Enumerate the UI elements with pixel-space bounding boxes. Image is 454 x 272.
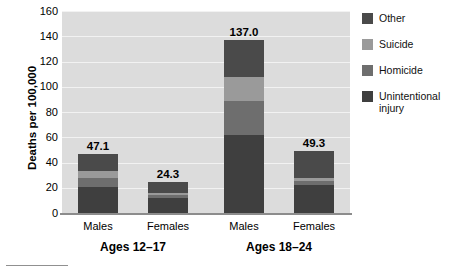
- legend-swatch-icon: [362, 13, 373, 24]
- legend-swatch-icon: [362, 39, 373, 50]
- bar: [224, 11, 264, 213]
- plot-area: [62, 11, 350, 213]
- stacked-bar-chart: Deaths per 100,000 160140120100806040200…: [0, 0, 454, 272]
- legend-item-label: Homicide: [379, 64, 423, 76]
- y-axis-tick-label: 80: [24, 107, 58, 118]
- x-axis-tick-label: Females: [272, 220, 356, 232]
- y-axis-tick-label: 100: [24, 81, 58, 92]
- legend-item: Unintentional injury: [362, 90, 454, 114]
- bar-segment: [78, 178, 118, 187]
- x-axis-group-label: Ages 18–24: [199, 240, 359, 254]
- bar-value-label: 49.3: [279, 137, 349, 149]
- bar: [78, 11, 118, 213]
- legend-swatch-icon: [362, 65, 373, 76]
- bar-segment: [224, 135, 264, 213]
- legend-item-label: Other: [379, 12, 405, 24]
- legend-item-label: Unintentional injury: [379, 90, 454, 114]
- x-axis-tick-label: Females: [126, 220, 210, 232]
- y-axis-tick-label: 160: [24, 6, 58, 17]
- bar-stack: [224, 40, 264, 213]
- bar-segment: [78, 187, 118, 214]
- y-axis-tick-label: 0: [24, 208, 58, 219]
- y-axis-tick-label: 60: [24, 132, 58, 143]
- legend-item: Other: [362, 12, 454, 24]
- bar-segment: [294, 185, 334, 213]
- chart-legend: OtherSuicideHomicideUnintentional injury: [362, 12, 454, 128]
- bar-segment: [224, 77, 264, 101]
- bottom-rule: [6, 265, 68, 266]
- bar-segment: [224, 40, 264, 77]
- bar: [294, 11, 334, 213]
- bar-value-label: 137.0: [209, 26, 279, 38]
- legend-swatch-icon: [362, 91, 373, 102]
- bar: [148, 11, 188, 213]
- bar-segment: [224, 101, 264, 135]
- y-axis-tick-label: 40: [24, 157, 58, 168]
- bar-stack: [78, 154, 118, 213]
- y-axis-tick-label: 20: [24, 182, 58, 193]
- bar-stack: [148, 182, 188, 213]
- y-axis-tick-label: 120: [24, 56, 58, 67]
- legend-item-label: Suicide: [379, 38, 413, 50]
- bar-stack: [294, 151, 334, 213]
- bar-segment: [294, 151, 334, 178]
- bar-segment: [78, 154, 118, 172]
- bar-value-label: 47.1: [63, 140, 133, 152]
- x-axis-group-label: Ages 12–17: [53, 240, 213, 254]
- y-axis-tick-label: 140: [24, 31, 58, 42]
- x-axis-line: [60, 213, 352, 215]
- legend-item: Homicide: [362, 64, 454, 76]
- bar-value-label: 24.3: [133, 168, 203, 180]
- bar-segment: [148, 198, 188, 213]
- legend-item: Suicide: [362, 38, 454, 50]
- y-axis-tick-labels: 160140120100806040200: [24, 0, 58, 272]
- bar-segment: [148, 182, 188, 192]
